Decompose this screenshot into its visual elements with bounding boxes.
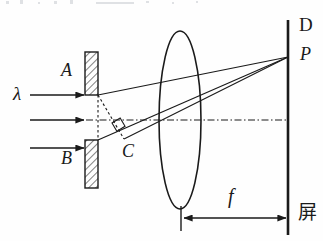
focal-length-dimension [181, 206, 286, 231]
label-wavelength: λ [13, 84, 21, 103]
label-slit-b: B [61, 149, 72, 167]
barrier-block-bottom [85, 140, 98, 188]
label-screen-cjk: 屏 [298, 203, 317, 222]
incident-ray-group [30, 95, 84, 148]
diagram-canvas [0, 0, 323, 241]
physics-diagram-figure: λ A B C D P f 屏 [0, 0, 323, 241]
label-screen-d: D [299, 15, 313, 34]
diffracted-ray-from-B [98, 57, 288, 140]
diffracted-ray-group [98, 57, 288, 140]
label-foot-point-c: C [122, 142, 134, 160]
diffracted-ray-from-A [98, 57, 288, 95]
construction-hypotenuse-AC [98, 95, 124, 139]
label-focus-point-p: P [300, 45, 311, 63]
diffracted-ray-from-C [124, 57, 288, 139]
label-focal-length-f: f [228, 186, 234, 206]
label-slit-a: A [61, 61, 72, 79]
barrier-block-top [85, 52, 98, 95]
